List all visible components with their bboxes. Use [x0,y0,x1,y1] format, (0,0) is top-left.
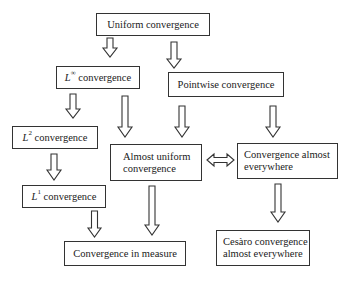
node-label-line1: Almost uniform [123,151,190,163]
node-label: L∞ convergence [65,72,131,84]
arrow-l1-to-measure [88,211,101,237]
node-label-line2: everywhere [244,161,330,173]
lp-symbol: L [65,72,71,83]
lp-exponent: 2 [28,129,32,137]
node-label-line2: convergence [123,163,190,175]
node-label: L1 convergence [32,191,97,203]
double-arrow-almost-uniform-ae [207,154,234,166]
arrow-linf-to-l2 [66,94,80,118]
node-pointwise-convergence: Pointwise convergence [168,72,284,97]
node-label-line1: Convergence almost [244,149,330,161]
arrow-uniform-to-linf [103,38,117,57]
arrow-pointwise-to-ae [266,106,280,137]
lp-text: convergence [32,132,87,143]
arrow-l2-to-l1 [47,154,61,180]
node-label-line1: Cesàro convergence [223,236,308,248]
node-almost-uniform-convergence: Almost uniform convergence [110,144,202,181]
lp-text: convergence [76,72,131,83]
arrow-linf-to-almost-uniform [118,96,132,137]
lp-exponent: ∞ [71,69,76,77]
node-label: Convergence in measure [73,248,177,260]
lp-exponent: 1 [37,188,41,196]
lp-text: convergence [41,191,96,202]
node-l2-convergence: L2 convergence [12,126,98,149]
node-cesaro-convergence-ae: Cesàro convergence almost everywhere [216,230,310,266]
arrow-ae-to-cesaro [271,184,285,222]
node-label: Uniform convergence [107,19,199,31]
arrow-pointwise-to-almost-uniform [175,106,189,137]
node-uniform-convergence: Uniform convergence [96,13,210,36]
arrow-uniform-to-pointwise [167,42,181,68]
node-label: Pointwise convergence [178,79,275,91]
node-convergence-almost-everywhere: Convergence almost everywhere [237,143,338,179]
arrow-almost-uniform-to-measure [145,186,159,235]
node-label-line2: almost everywhere [223,248,308,260]
node-l1-convergence: L1 convergence [22,185,106,208]
node-convergence-in-measure: Convergence in measure [64,241,186,266]
node-linf-convergence: L∞ convergence [56,66,140,89]
node-label: L2 convergence [23,132,88,144]
